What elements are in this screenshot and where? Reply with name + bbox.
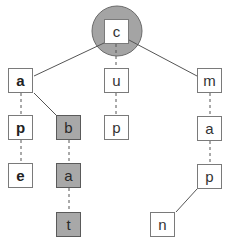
edge-p-n [176,189,197,212]
trie-diagram: c a p e b a t u p m a p n [0,0,232,245]
edge-root-m [129,40,197,76]
edge-root-a [34,43,104,76]
node-m: m [197,68,222,93]
node-e-left: e [8,163,33,188]
node-a-highlighted: a [56,163,81,188]
node-n: n [150,212,175,237]
node-a-left: a [8,68,33,93]
node-t-highlighted: t [56,212,81,237]
edge-a-b [34,93,56,115]
node-p-right: p [197,164,222,189]
root-node: c [104,19,129,44]
node-p-middle: p [104,115,129,140]
node-p-left: p [8,115,33,140]
node-a-right: a [197,116,222,141]
node-u: u [104,68,129,93]
node-b-highlighted: b [56,115,81,140]
